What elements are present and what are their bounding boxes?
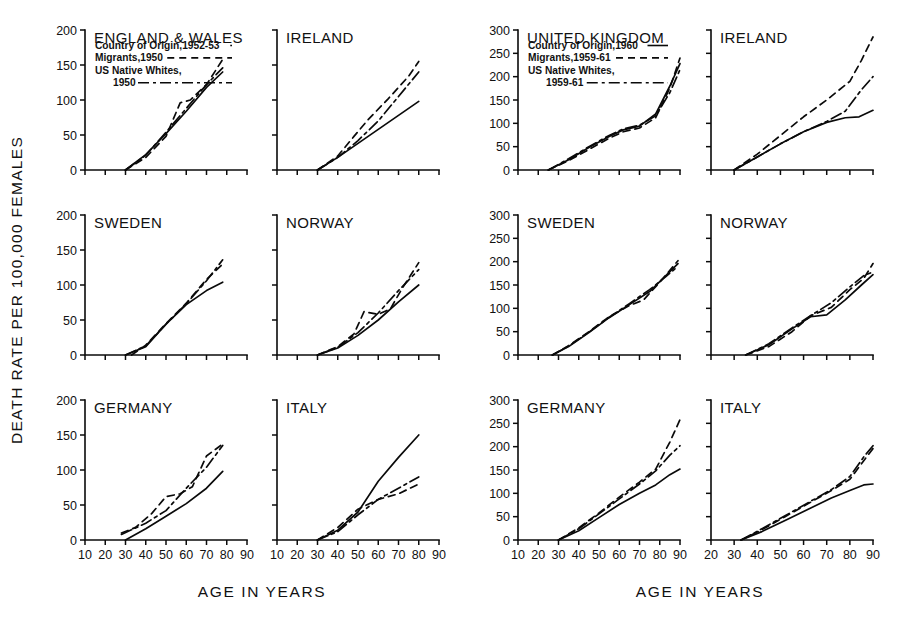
x-tick-label: 70 — [392, 548, 406, 562]
y-tick-label: 200 — [56, 209, 77, 223]
x-tick-label: 10 — [270, 548, 284, 562]
y-tick-label: 0 — [503, 534, 510, 548]
y-tick-label: 200 — [56, 394, 77, 408]
panel-germany: 050100150200102030405060708090GERMANY — [56, 394, 254, 563]
y-tick-label: 150 — [56, 429, 77, 443]
y-tick-label: 200 — [489, 70, 510, 84]
series-line-solid — [552, 264, 678, 355]
series-line-dashed — [741, 449, 873, 540]
x-tick-label: 50 — [592, 548, 606, 562]
x-tick-label: 90 — [866, 548, 880, 562]
x-tick-label: 80 — [653, 548, 667, 562]
panel-axes — [711, 215, 873, 355]
panel-axes — [85, 215, 247, 355]
panel-axes — [277, 215, 439, 355]
y-tick-label: 0 — [503, 349, 510, 363]
y-tick-label: 100 — [56, 94, 77, 108]
series-line-dashed — [746, 264, 873, 355]
x-tick-label: 60 — [371, 548, 385, 562]
x-tick-label: 90 — [432, 548, 446, 562]
x-tick-label: 90 — [240, 548, 254, 562]
mortality-small-multiples-figure: 050100150200ENGLAND & WALESIRELAND050100… — [0, 0, 905, 618]
y-tick-label: 0 — [70, 534, 77, 548]
panel-axes — [85, 30, 247, 170]
y-tick-label: 300 — [489, 24, 510, 38]
y-tick-label: 50 — [63, 499, 77, 513]
panel-ireland: IRELAND — [706, 29, 873, 175]
legend-label: Country of Origin,1952-53 — [95, 40, 220, 51]
x-tick-label: 10 — [78, 548, 92, 562]
y-tick-label: 200 — [56, 24, 77, 38]
series-line-solid — [126, 282, 223, 355]
panel-italy: 2030405060708090ITALY — [704, 399, 880, 562]
x-tick-label: 50 — [773, 548, 787, 562]
x-axis-title-left: AGE IN YEARS — [198, 583, 326, 600]
y-tick-label: 50 — [63, 129, 77, 143]
y-tick-label: 200 — [489, 255, 510, 269]
panel-axes — [277, 30, 439, 170]
y-tick-label: 100 — [56, 279, 77, 293]
series-line-solid — [318, 285, 419, 355]
x-tick-label: 60 — [179, 548, 193, 562]
series-line-solid — [746, 275, 873, 355]
x-tick-label: 50 — [159, 548, 173, 562]
panel-italy: 102030405060708090ITALY — [270, 399, 446, 562]
series-line-dashed — [552, 261, 678, 355]
y-tick-label: 150 — [489, 464, 510, 478]
panel-sweden: 050100150200SWEDEN — [56, 209, 247, 363]
x-tick-label: 30 — [552, 548, 566, 562]
legend-label: Migrants,1950 — [95, 52, 163, 63]
panel-axes — [518, 30, 680, 170]
y-tick-label: 150 — [489, 279, 510, 293]
panel-norway: NORWAY — [706, 214, 873, 360]
series-line-solid — [126, 72, 223, 170]
x-tick-label: 20 — [704, 548, 718, 562]
panel-title: ITALY — [286, 399, 327, 416]
y-tick-label: 50 — [496, 140, 510, 154]
y-tick-label: 50 — [63, 314, 77, 328]
y-tick-label: 150 — [489, 94, 510, 108]
y-tick-label: 50 — [496, 510, 510, 524]
x-tick-label: 60 — [797, 548, 811, 562]
x-axis-title-right: AGE IN YEARS — [636, 583, 764, 600]
panel-ireland: IRELAND — [272, 29, 439, 175]
y-tick-label: 300 — [489, 394, 510, 408]
x-tick-label: 30 — [311, 548, 325, 562]
y-tick-label: 100 — [489, 302, 510, 316]
series-line-dashdot — [746, 272, 873, 355]
x-tick-label: 20 — [98, 548, 112, 562]
series-line-dashdot — [318, 270, 419, 355]
panel-axes — [277, 400, 439, 540]
series-line-dashed — [318, 62, 419, 171]
panel-title: ITALY — [720, 399, 761, 416]
figure-canvas: 050100150200ENGLAND & WALESIRELAND050100… — [0, 0, 905, 618]
y-tick-label: 250 — [489, 417, 510, 431]
panel-norway: NORWAY — [272, 214, 439, 360]
x-tick-label: 40 — [572, 548, 586, 562]
x-tick-label: 40 — [750, 548, 764, 562]
y-tick-label: 100 — [56, 464, 77, 478]
x-tick-label: 40 — [139, 548, 153, 562]
panel-title: NORWAY — [286, 214, 354, 231]
panel-axes — [711, 400, 873, 540]
panel-title: IRELAND — [286, 29, 354, 46]
legend-label: Country of Origin,1960 — [528, 40, 638, 51]
legend-label: 1950 — [113, 77, 136, 88]
series-line-solid — [734, 110, 873, 170]
series-line-dashdot — [126, 260, 223, 355]
panel-axes — [711, 30, 873, 170]
panel-axes — [85, 400, 247, 540]
panel-title: GERMANY — [527, 399, 606, 416]
series-line-dashdot — [552, 266, 678, 355]
x-tick-label: 60 — [612, 548, 626, 562]
y-tick-label: 150 — [56, 59, 77, 73]
x-tick-label: 40 — [331, 548, 345, 562]
y-axis-title: DEATH RATE PER 100,000 FEMALES — [8, 136, 25, 444]
x-tick-label: 70 — [200, 548, 214, 562]
x-tick-label: 80 — [843, 548, 857, 562]
legend-label: US Native Whites, — [95, 65, 182, 76]
series-line-dashdot — [559, 446, 681, 540]
y-tick-label: 300 — [489, 209, 510, 223]
y-tick-label: 100 — [489, 117, 510, 131]
panel-title: SWEDEN — [527, 214, 595, 231]
